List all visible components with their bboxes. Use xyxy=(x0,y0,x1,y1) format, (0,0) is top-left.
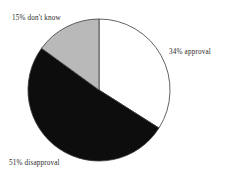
pie-label-approval: 34% approval xyxy=(169,48,211,56)
pie-chart-canvas xyxy=(0,0,225,183)
pie-slices-group xyxy=(28,19,170,161)
pie-label-disapproval: 51% disapproval xyxy=(9,159,60,167)
pie-chart: 15% don't know 34% approval 51% disappro… xyxy=(0,0,225,183)
pie-label-dont-know: 15% don't know xyxy=(12,14,61,22)
